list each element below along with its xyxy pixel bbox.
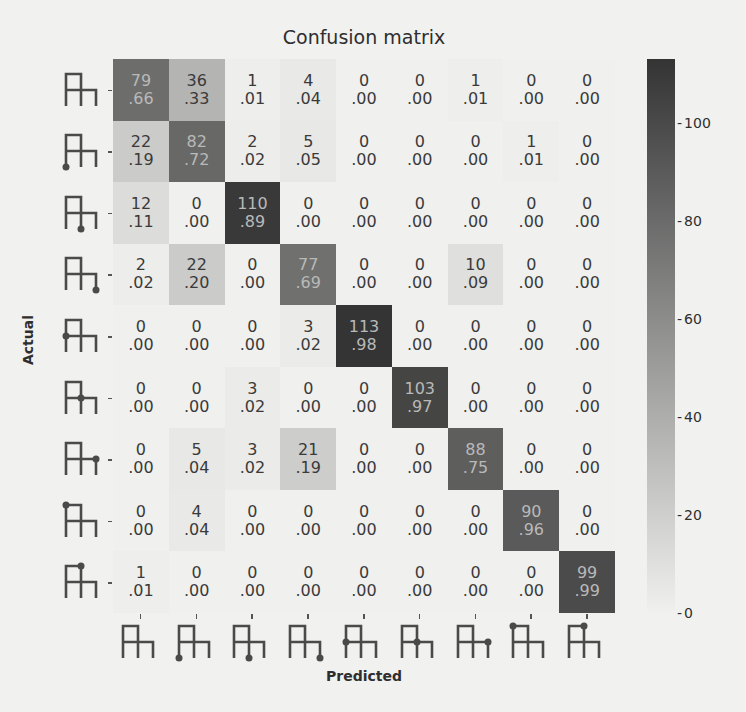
cell-count: 0 <box>415 72 425 90</box>
matrix-cell: 79.66 <box>113 59 169 121</box>
cell-normalized: .00 <box>351 213 376 231</box>
cell-normalized: .00 <box>240 336 265 354</box>
cell-normalized: .00 <box>351 274 376 292</box>
matrix-cell: 0.00 <box>336 244 392 306</box>
cell-count: 0 <box>470 564 480 582</box>
cell-normalized: .00 <box>351 459 376 477</box>
cell-normalized: .00 <box>407 90 432 108</box>
matrix-cell: 0.00 <box>280 182 336 244</box>
matrix-cell: 1.01 <box>225 59 281 121</box>
cell-count: 0 <box>526 441 536 459</box>
matrix-cell: 0.00 <box>336 121 392 183</box>
cell-normalized: .09 <box>463 274 488 292</box>
cell-count: 0 <box>582 380 592 398</box>
cell-normalized: .11 <box>128 213 153 231</box>
cell-normalized: .00 <box>184 336 209 354</box>
matrix-cell: 12.11 <box>113 182 169 244</box>
cell-normalized: .00 <box>574 336 599 354</box>
cell-count: 0 <box>415 256 425 274</box>
matrix-cell: 1.01 <box>448 59 504 121</box>
y-tick-glyph-5-icon <box>62 378 112 418</box>
cell-normalized: .02 <box>240 398 265 416</box>
cell-normalized: .66 <box>128 90 153 108</box>
matrix-cell: 103.97 <box>392 367 448 429</box>
matrix-cell: 110.89 <box>225 182 281 244</box>
cell-normalized: .00 <box>240 521 265 539</box>
matrix-cell: 0.00 <box>503 428 559 490</box>
matrix-cell: 4.04 <box>169 490 225 552</box>
y-tick-glyph-0-icon <box>62 70 112 110</box>
matrix-cell: 0.00 <box>225 305 281 367</box>
y-tick-glyph-4-icon <box>62 316 112 356</box>
matrix-cell: 0.00 <box>559 182 615 244</box>
matrix-cell: 0.00 <box>280 490 336 552</box>
matrix-cell: 0.00 <box>280 551 336 613</box>
cell-count: 0 <box>415 441 425 459</box>
cell-count: 1 <box>247 72 257 90</box>
matrix-cell: 0.00 <box>392 182 448 244</box>
cell-normalized: .69 <box>295 274 320 292</box>
cell-count: 0 <box>359 133 369 151</box>
cell-normalized: .00 <box>574 213 599 231</box>
cell-normalized: .00 <box>574 274 599 292</box>
cell-count: 0 <box>303 564 313 582</box>
cell-count: 0 <box>136 441 146 459</box>
cell-normalized: .19 <box>128 151 153 169</box>
cell-count: 0 <box>359 256 369 274</box>
cell-normalized: .05 <box>295 151 320 169</box>
cell-normalized: .00 <box>519 213 544 231</box>
matrix-cell: 0.00 <box>503 305 559 367</box>
cell-normalized: .00 <box>240 582 265 600</box>
cell-count: 4 <box>303 72 313 90</box>
cell-normalized: .72 <box>184 151 209 169</box>
cell-normalized: .00 <box>407 521 432 539</box>
cell-normalized: .99 <box>574 582 599 600</box>
cell-normalized: .01 <box>128 582 153 600</box>
cell-count: 0 <box>136 380 146 398</box>
confusion-matrix-grid: 79.6636.331.014.040.000.001.010.000.0022… <box>113 59 615 613</box>
y-axis-label: Actual <box>20 315 36 365</box>
cell-count: 0 <box>136 503 146 521</box>
matrix-cell: 0.00 <box>169 182 225 244</box>
cell-count: 0 <box>415 318 425 336</box>
cell-normalized: .96 <box>519 521 544 539</box>
matrix-cell: 0.00 <box>169 367 225 429</box>
cell-normalized: .00 <box>463 213 488 231</box>
cell-normalized: .00 <box>184 582 209 600</box>
cell-count: 0 <box>470 503 480 521</box>
cell-normalized: .20 <box>184 274 209 292</box>
x-tick-glyph-5-icon <box>395 614 445 664</box>
cell-normalized: .00 <box>351 151 376 169</box>
matrix-cell: 0.00 <box>392 59 448 121</box>
cell-count: 0 <box>192 564 202 582</box>
matrix-cell: 5.04 <box>169 428 225 490</box>
cell-normalized: .00 <box>407 459 432 477</box>
cell-normalized: .00 <box>295 398 320 416</box>
cell-count: 0 <box>303 380 313 398</box>
cell-normalized: .00 <box>519 398 544 416</box>
y-tick-glyph-6-icon <box>62 439 112 479</box>
cell-count: 10 <box>465 256 485 274</box>
cell-count: 0 <box>247 503 257 521</box>
cell-normalized: .00 <box>574 521 599 539</box>
matrix-cell: 0.00 <box>280 367 336 429</box>
cell-count: 5 <box>192 441 202 459</box>
matrix-cell: 0.00 <box>336 490 392 552</box>
matrix-cell: 0.00 <box>448 367 504 429</box>
cell-normalized: .02 <box>128 274 153 292</box>
cell-count: 0 <box>359 72 369 90</box>
matrix-cell: 99.99 <box>559 551 615 613</box>
x-tick-glyph-1-icon <box>172 614 222 664</box>
cell-normalized: .00 <box>574 90 599 108</box>
cell-normalized: .00 <box>407 336 432 354</box>
matrix-cell: 36.33 <box>169 59 225 121</box>
cell-normalized: .00 <box>463 336 488 354</box>
x-tick-glyph-6-icon <box>451 614 501 664</box>
cell-normalized: .19 <box>295 459 320 477</box>
cell-count: 0 <box>303 503 313 521</box>
cell-normalized: .00 <box>240 274 265 292</box>
cell-count: 0 <box>470 380 480 398</box>
cell-normalized: .33 <box>184 90 209 108</box>
x-tick-glyph-4-icon <box>339 614 389 664</box>
cell-count: 0 <box>526 256 536 274</box>
